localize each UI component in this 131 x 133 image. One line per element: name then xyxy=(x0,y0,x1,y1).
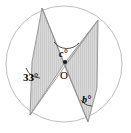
angle-label-b: b° xyxy=(82,95,91,105)
geometry-figure: 33° c° b° O xyxy=(0,0,131,133)
geometry-canvas xyxy=(0,0,131,133)
angle-label-33: 33° xyxy=(23,72,38,83)
angle-label-c: c° xyxy=(59,49,67,59)
centre-label-o: O xyxy=(60,70,68,81)
centre-dot xyxy=(63,60,67,64)
